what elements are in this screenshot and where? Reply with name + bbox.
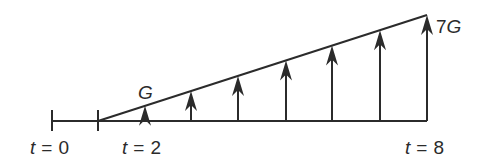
time-var: t xyxy=(30,137,36,158)
up-arrow-icon xyxy=(280,60,292,121)
equals-sign: = xyxy=(133,137,144,158)
time-value: 0 xyxy=(58,137,69,158)
cash-flow-gradient-diagram: G 7G t=0 t=2 t=8 xyxy=(0,0,484,163)
time-label-t2: t=2 xyxy=(122,137,161,158)
gradient-last-label: 7G xyxy=(436,16,461,37)
time-var: t xyxy=(405,137,411,158)
gradient-first-label: G xyxy=(138,82,153,103)
time-label-t0: t=0 xyxy=(30,137,69,158)
up-arrow-icon xyxy=(421,15,433,121)
up-arrow-icon xyxy=(139,106,151,126)
equals-sign: = xyxy=(41,137,52,158)
arrows-group xyxy=(139,15,433,126)
time-label-t8: t=8 xyxy=(405,137,444,158)
gradient-last-multiplier: 7 xyxy=(436,16,447,37)
up-arrow-icon xyxy=(232,76,244,121)
up-arrow-icon xyxy=(374,30,386,121)
labels-group: G 7G t=0 t=2 t=8 xyxy=(30,16,461,158)
diagram-canvas: G 7G t=0 t=2 t=8 xyxy=(0,0,484,163)
arrow-head xyxy=(139,106,151,126)
up-arrow-icon xyxy=(326,46,338,121)
gradient-slope-line xyxy=(98,15,427,121)
time-var: t xyxy=(122,137,128,158)
gradient-last-variable: G xyxy=(447,16,462,37)
time-value: 2 xyxy=(150,137,161,158)
timeline-group xyxy=(52,15,427,131)
equals-sign: = xyxy=(416,137,427,158)
time-value: 8 xyxy=(433,137,444,158)
up-arrow-icon xyxy=(185,91,197,121)
